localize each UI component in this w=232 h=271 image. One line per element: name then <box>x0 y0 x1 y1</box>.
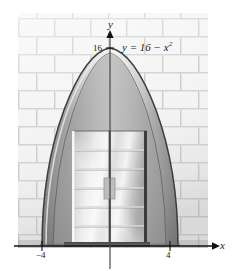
equation-exponent: 2 <box>169 40 173 48</box>
glass-right-edge <box>144 131 147 246</box>
equation-text: y = 16 − x <box>122 41 169 53</box>
x-tick-label-neg4: −4 <box>36 251 46 260</box>
x-axis-arrowhead <box>212 242 220 250</box>
equation-label: y = 16 − x2 <box>122 41 172 53</box>
y-tick-label-16: 16 <box>93 44 102 53</box>
y-axis-label: y <box>108 19 113 30</box>
figure-canvas <box>0 0 232 271</box>
x-axis-label: x <box>220 240 225 251</box>
x-tick-label-4: 4 <box>166 251 171 260</box>
parabolic-arch-figure: y x 16 −4 4 y = 16 − x2 <box>0 0 232 271</box>
glass-left-edge <box>72 131 74 246</box>
